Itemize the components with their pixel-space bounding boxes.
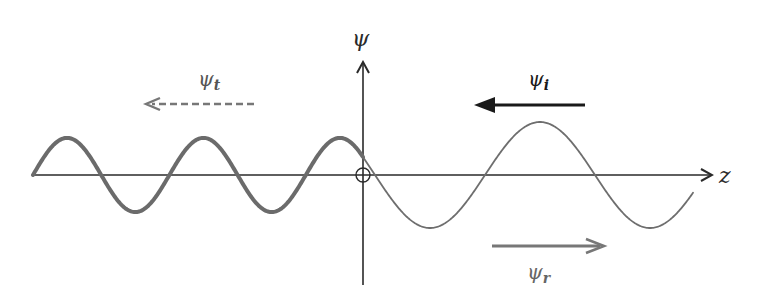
transmitted-arrow — [146, 98, 254, 110]
incident-label-base: ψ — [528, 67, 544, 91]
transmitted-label: ψt — [198, 67, 221, 93]
transmitted-label-base: ψ — [198, 67, 214, 91]
transmitted-label-sub: t — [214, 77, 221, 93]
reflected-label: ψr — [527, 260, 552, 286]
incident-arrow — [474, 97, 585, 113]
reflected-label-base: ψ — [527, 260, 543, 284]
incident-label: ψi — [528, 67, 549, 93]
wave-diagram: z ψ ψt ψi ψr — [0, 0, 770, 306]
psi-axis-label: ψ — [352, 26, 370, 51]
reflected-label-sub: r — [543, 270, 552, 286]
reflected-arrow — [492, 239, 604, 253]
incident-label-sub: i — [544, 77, 549, 93]
z-axis-label: z — [718, 163, 731, 188]
